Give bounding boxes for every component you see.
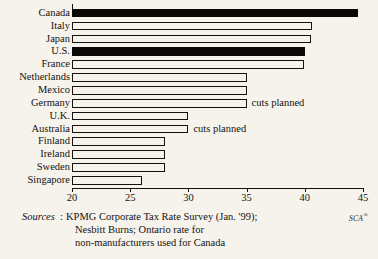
category-label: Canada	[39, 7, 71, 20]
bar-annotation: cuts planned	[193, 123, 246, 136]
sources-colon: :	[60, 210, 63, 223]
category-label: Italy	[51, 20, 70, 33]
bar-row: Finland	[0, 136, 378, 149]
category-label: Ireland	[40, 148, 70, 161]
publisher-mark-text: SCA	[349, 214, 363, 223]
bar	[72, 47, 305, 56]
bar-row: Ireland	[0, 149, 378, 162]
bar-row: Netherlands	[0, 72, 378, 85]
x-axis-tick-label: 30	[175, 192, 201, 204]
category-label: Mexico	[38, 84, 70, 97]
x-axis-tick-label: 25	[117, 192, 143, 204]
bar-row: Germanycuts planned	[0, 97, 378, 110]
bar	[72, 112, 188, 121]
bar-chart: 202530354045 CanadaItalyJapanU.S.FranceN…	[0, 0, 378, 205]
sources-line: KPMG Corporate Tax Rate Survey (Jan. '99…	[66, 210, 257, 223]
category-label: U.S.	[51, 45, 70, 58]
category-label: Japan	[46, 33, 70, 46]
bar	[72, 35, 311, 44]
x-axis-tick-label: 35	[234, 192, 260, 204]
x-axis-tick-label: 45	[350, 192, 376, 204]
category-label: Netherlands	[19, 71, 70, 84]
sources-text: KPMG Corporate Tax Rate Survey (Jan. '99…	[66, 210, 257, 249]
category-label: Australia	[32, 123, 71, 136]
bar	[72, 137, 165, 146]
bar-row: Canada	[0, 7, 378, 20]
bar-row: U.K.	[0, 110, 378, 123]
bar	[72, 73, 247, 82]
bar-row: Sweden	[0, 162, 378, 175]
bar	[72, 125, 188, 134]
bar	[72, 86, 247, 95]
sources-line: non-manufacturers used for Canada	[66, 236, 257, 249]
category-label: Germany	[31, 97, 70, 110]
category-label: U.K.	[50, 110, 70, 123]
chart-footer: Sources : KPMG Corporate Tax Rate Survey…	[0, 210, 378, 259]
category-label: Singapore	[27, 174, 70, 187]
bar-row: Mexico	[0, 84, 378, 97]
x-axis-line	[72, 188, 363, 189]
x-axis-tick-label: 40	[292, 192, 318, 204]
bar-row: U.S.	[0, 46, 378, 59]
bar-row: France	[0, 59, 378, 72]
sources-label: Sources	[22, 210, 55, 223]
bar	[72, 176, 142, 185]
sources-line: Nesbitt Burns; Ontario rate for	[66, 223, 257, 236]
category-label: Sweden	[37, 161, 70, 174]
bar-annotation: cuts planned	[252, 97, 305, 110]
bar	[72, 150, 165, 159]
bar	[72, 9, 358, 18]
bar	[72, 163, 165, 172]
bar	[72, 99, 247, 108]
category-label: France	[41, 58, 70, 71]
registered-icon: ®	[363, 212, 368, 218]
category-label: Finland	[38, 135, 70, 148]
bar	[72, 60, 304, 69]
bar-row: Singapore	[0, 174, 378, 187]
bar-row: Australiacuts planned	[0, 123, 378, 136]
bar-row: Japan	[0, 33, 378, 46]
x-axis-tick-label: 20	[59, 192, 85, 204]
publisher-mark: SCA®	[349, 212, 368, 223]
bar	[72, 22, 312, 31]
bar-row: Italy	[0, 20, 378, 33]
